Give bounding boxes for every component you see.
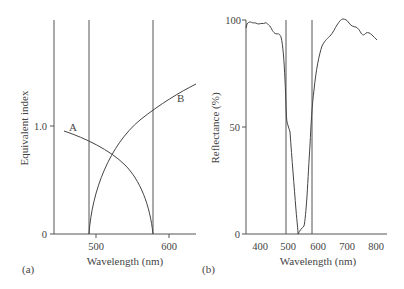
y-axis-title-b: Reflectance (%) bbox=[209, 92, 222, 163]
y-tick-label-a-1: 1.0 bbox=[34, 121, 47, 132]
x-tick-label-b-800: 800 bbox=[368, 241, 384, 252]
y-tick-label-b-50: 50 bbox=[230, 122, 241, 133]
figure: 0 1.0 500 600 Wavelength (nm) Equivalent… bbox=[0, 0, 404, 289]
x-tick-label-a-600: 600 bbox=[161, 241, 177, 252]
x-axis-title-b: Wavelength (nm) bbox=[280, 255, 357, 268]
curve-b bbox=[89, 84, 196, 234]
y-tick-label-a-0: 0 bbox=[42, 229, 47, 240]
x-tick-label-a-500: 500 bbox=[88, 241, 104, 252]
x-tick-label-b-400: 400 bbox=[252, 241, 268, 252]
panel-label-b: (b) bbox=[202, 263, 215, 276]
y-tick-label-b-0: 0 bbox=[235, 229, 240, 240]
x-tick-label-b-600: 600 bbox=[310, 241, 326, 252]
curve-label-b: B bbox=[177, 92, 184, 104]
x-tick-label-b-500: 500 bbox=[280, 241, 296, 252]
curve-label-a: A bbox=[69, 121, 77, 133]
panel-a: 0 1.0 500 600 Wavelength (nm) Equivalent… bbox=[18, 20, 196, 276]
y-tick-label-b-100: 100 bbox=[225, 15, 241, 26]
x-axis-title-a: Wavelength (nm) bbox=[87, 255, 164, 268]
panel-b: 0 50 100 400 500 600 700 800 Wavelength … bbox=[202, 15, 387, 276]
panel-label-a: (a) bbox=[22, 263, 35, 276]
y-axis-title-a: Equivalent index bbox=[18, 90, 30, 165]
curve-a bbox=[64, 131, 153, 234]
x-tick-label-b-700: 700 bbox=[339, 241, 355, 252]
